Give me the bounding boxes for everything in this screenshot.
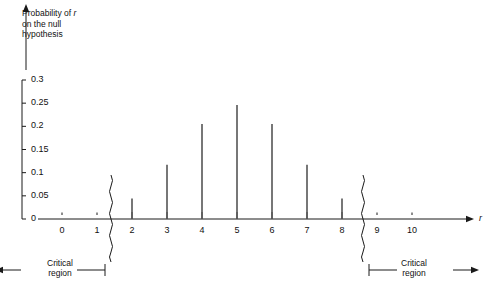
x-axis-tick-label: 9 bbox=[374, 225, 379, 235]
x-axis-tick-label: 10 bbox=[407, 225, 417, 235]
chart-figure: Probability of ron the nullhypothesis 00… bbox=[0, 0, 489, 293]
x-axis-tick-label: 0 bbox=[59, 225, 64, 235]
y-axis-tick-label: 0.05 bbox=[31, 190, 49, 200]
y-axis-tick-label: 0.2 bbox=[31, 120, 44, 130]
left-critical-region-label: Critical region bbox=[47, 258, 73, 278]
x-axis-tip-label: r bbox=[479, 213, 482, 223]
left-critical-region-arrow-icon bbox=[0, 267, 3, 273]
x-axis-tick-label: 3 bbox=[164, 225, 169, 235]
y-axis-tick-label: 0 bbox=[31, 213, 36, 223]
x-axis-tick-label: 6 bbox=[269, 225, 274, 235]
right-critical-region-label: Critical region bbox=[401, 258, 427, 278]
x-axis-arrow-icon bbox=[466, 216, 474, 222]
x-axis-tick-label: 8 bbox=[339, 225, 344, 235]
chart-plot-area bbox=[0, 0, 489, 293]
y-axis-tick-label: 0.25 bbox=[31, 97, 49, 107]
y-axis-tick-label: 0.15 bbox=[31, 144, 49, 154]
x-axis-tick-label: 5 bbox=[234, 225, 239, 235]
probability-axis-arrow-icon bbox=[23, 4, 29, 12]
x-axis-tick-label: 4 bbox=[199, 225, 204, 235]
right-critical-region-arrow-icon bbox=[471, 267, 479, 273]
x-axis-tick-label: 1 bbox=[94, 225, 99, 235]
y-axis-tick-label: 0.3 bbox=[31, 74, 44, 84]
x-axis-tick-label: 2 bbox=[129, 225, 134, 235]
y-axis-tick-label: 0.1 bbox=[31, 167, 44, 177]
x-axis-tick-label: 7 bbox=[304, 225, 309, 235]
